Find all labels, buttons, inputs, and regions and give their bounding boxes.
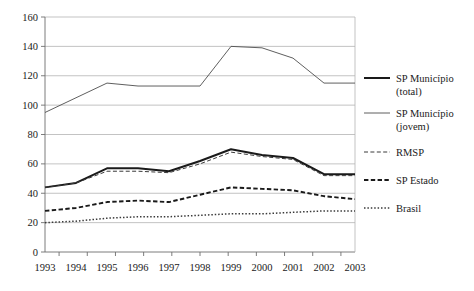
series-line <box>45 152 355 187</box>
y-axis-tick-label: 20 <box>28 217 39 228</box>
legend-label: SP Município <box>396 73 454 84</box>
series-line <box>45 187 355 211</box>
y-axis <box>41 17 45 252</box>
legend-label-secondary: (jovem) <box>396 121 430 133</box>
x-axis-tick-label: 1996 <box>128 262 149 273</box>
y-axis-tick-label: 160 <box>22 12 38 23</box>
line-chart: 020406080100120140160 199319941995199619… <box>0 0 474 291</box>
y-axis-tick-label: 80 <box>28 129 39 140</box>
y-axis-tick-label: 40 <box>28 188 39 199</box>
x-axis-tick-label: 1993 <box>35 262 56 273</box>
series-line <box>45 46 355 112</box>
gridlines-group <box>45 17 355 223</box>
chart-container: 020406080100120140160 199319941995199619… <box>0 0 474 291</box>
x-axis-tick-label: 1995 <box>97 262 118 273</box>
x-axis-tick-label: 2003 <box>345 262 366 273</box>
y-axis-tick-label: 0 <box>33 247 38 258</box>
y-tick-labels: 020406080100120140160 <box>22 12 38 258</box>
x-axis-tick-label: 2000 <box>252 262 273 273</box>
chart-legend: SP Município(total)SP Município(jovem)RM… <box>364 73 454 214</box>
y-axis-tick-label: 140 <box>22 41 38 52</box>
legend-label: SP Município <box>396 108 454 119</box>
x-axis-tick-label: 1999 <box>221 262 242 273</box>
legend-label-secondary: (total) <box>396 86 422 98</box>
x-axis-tick-label: 1997 <box>159 262 180 273</box>
x-axis <box>45 17 355 256</box>
x-axis-tick-label: 1998 <box>190 262 211 273</box>
legend-label: SP Estado <box>396 175 439 186</box>
y-axis-tick-label: 60 <box>28 158 39 169</box>
legend-label: RMSP <box>396 147 424 158</box>
legend-label: Brasil <box>396 203 421 214</box>
y-axis-tick-label: 120 <box>22 70 38 81</box>
x-axis-tick-label: 2002 <box>314 262 335 273</box>
series-line <box>45 149 355 187</box>
series-line <box>45 211 355 223</box>
x-axis-tick-label: 1994 <box>66 262 88 273</box>
y-axis-tick-label: 100 <box>22 100 38 111</box>
x-tick-labels: 1993199419951996199719981999200020012002… <box>35 262 366 273</box>
x-axis-tick-label: 2001 <box>283 262 304 273</box>
